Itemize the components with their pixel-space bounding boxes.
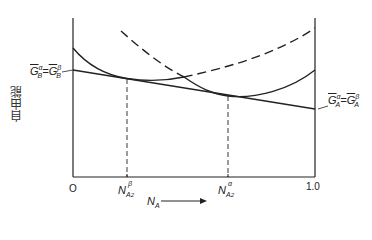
right-label-leader [318, 106, 328, 109]
right-intercept-label: GαA=GβA [328, 93, 359, 108]
x-axis-arrow-head-icon [200, 198, 207, 204]
alpha-curve-solid [73, 48, 184, 80]
alpha-composition-label: NA2α [218, 183, 232, 198]
alpha-curve-dashed [184, 28, 315, 77]
beta-curve-dashed [121, 31, 184, 77]
beta-composition-label: NA2β [118, 183, 132, 198]
left-intercept-label: GαB=GβB [30, 64, 61, 79]
x-end-label: 1.0 [306, 181, 320, 192]
y-axis-label: 自由能 [8, 86, 22, 122]
left-label-leader [62, 70, 73, 72]
origin-label: O [69, 183, 77, 194]
x-axis-label: NA [147, 196, 160, 209]
beta-curve-solid [184, 70, 315, 97]
